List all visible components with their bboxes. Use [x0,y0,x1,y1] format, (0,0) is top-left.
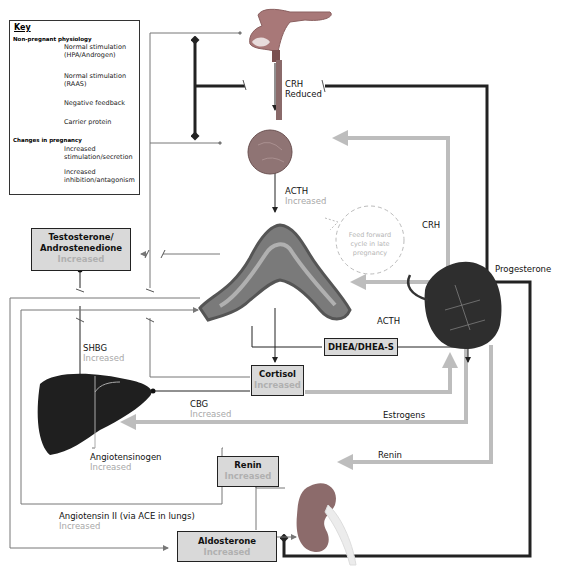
crh-placenta-label: CRH [422,220,440,230]
shbg-label: SHBGIncreased [83,343,124,363]
angiotensin2-label: Angiotensin II (via ACE in lungs)Increas… [59,511,195,531]
placenta-icon [408,262,501,349]
angiotensinogen-label: AngiotensinogenIncreased [90,452,162,472]
legend-key: Key Non-pregnant physiology Normal stimu… [9,20,140,195]
testosterone-box: Testosterone/AndrostenedioneIncreased [31,228,131,271]
pituitary-icon [248,60,292,174]
key-item-raas: Normal stimulation(RAAS) [64,72,126,88]
cbg-label: CBGIncreased [190,399,231,419]
key-section-non-pregnant: Non-pregnant physiology [13,36,92,42]
adrenal-gland-icon [200,225,350,320]
kidney-icon [297,483,356,565]
acth-label: ACTHIncreased [285,186,326,206]
key-section-pregnancy: Changes in pregnancy [13,137,82,143]
key-item-negative-feedback: Negative feedback [64,99,125,107]
aldosterone-box: AldosteroneIncreased [177,531,277,562]
key-item-carrier-protein: Carrier protein [64,118,111,126]
hypothalamus-icon [250,9,332,62]
cortisol-box: CortisolIncreased [251,365,304,396]
key-item-hpa: Normal stimulation(HPA/Androgen) [64,43,126,59]
dhea-box: DHEA/DHEA-S [324,338,398,356]
dhea-line [252,326,322,347]
dhea-to-placenta [398,347,468,362]
progesterone-label: Progesterone [495,264,551,274]
crh-label: CRHReduced [285,79,322,99]
liver-icon [38,374,152,455]
estrogens-label: Estrogens [383,410,425,420]
acth-placenta-label: ACTH [377,316,400,326]
key-item-increased-inhibition: Increasedinhibition/antagonism [64,168,135,184]
renin-arrow-label: Renin [378,450,402,460]
key-item-increased-stimulation: Increasedstimulation/secretion [64,145,133,161]
feed-forward-label: Feed forwardcycle in latepregnancy [335,231,405,258]
renin-box: ReninIncreased [217,456,279,487]
key-title: Key [14,23,31,32]
